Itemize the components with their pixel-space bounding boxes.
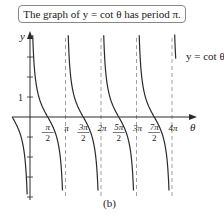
x-axis-label: θ	[190, 121, 196, 133]
cot-branch	[68, 35, 98, 190]
cot-branch	[175, 34, 176, 58]
svg-text:π: π	[45, 122, 50, 132]
cot-branch	[33, 35, 63, 190]
svg-text:π: π	[64, 123, 69, 133]
svg-text:2: 2	[81, 133, 86, 143]
x-tick-label: 2π	[97, 123, 107, 133]
y-tick-label-1: 1	[18, 92, 23, 103]
svg-text:3π: 3π	[78, 122, 89, 132]
x-tick-label: π	[64, 123, 69, 133]
x-tick-label: 3π	[132, 123, 143, 133]
svg-text:2: 2	[117, 133, 122, 143]
svg-text:2π: 2π	[97, 123, 107, 133]
svg-text:3π: 3π	[132, 123, 143, 133]
x-tick-label: 3π2	[77, 122, 89, 143]
svg-text:5π: 5π	[114, 122, 124, 132]
svg-text:7π: 7π	[150, 122, 160, 132]
cot-curves	[12, 34, 175, 194]
y-axis-arrow-icon	[27, 31, 33, 39]
svg-text:2: 2	[46, 133, 51, 143]
x-tick-label: 4π	[168, 123, 178, 133]
x-tick-label: 5π2	[113, 122, 125, 143]
figure-caption: (b)	[103, 197, 116, 209]
curve-label: y = cot θ	[186, 50, 224, 62]
svg-text:4π: 4π	[168, 123, 178, 133]
y-axis-label: y	[19, 30, 25, 42]
cot-branch	[104, 35, 134, 190]
x-tick-labels: π2π3π22π5π23π7π24π	[42, 122, 178, 143]
cot-graph: π2π3π22π5π23π7π24π y 1 θ y = cot θ	[0, 0, 224, 216]
x-tick-label: 7π2	[148, 122, 160, 143]
x-axis-arrow-icon	[189, 114, 197, 120]
svg-text:2: 2	[152, 133, 157, 143]
cot-branch	[139, 35, 169, 190]
cot-branch	[12, 117, 27, 194]
